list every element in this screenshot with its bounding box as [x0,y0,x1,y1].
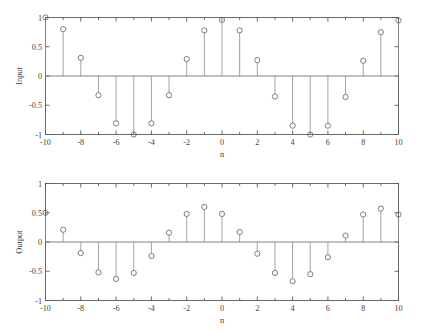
stem-marker [202,204,207,209]
stem-marker [272,270,277,275]
x-axis-label: n [220,150,225,159]
stem-plot-figure: -10-8-6-4-20246810-1-0.500.51nInput -10-… [0,0,422,332]
x-axis-tick-label: 8 [361,138,365,147]
x-axis-tick-label: 4 [291,304,295,313]
stem-marker [61,227,66,232]
x-axis-tick-label: -6 [113,304,120,313]
x-axis-tick-label: -2 [183,304,190,313]
y-axis-label: Input [15,66,24,84]
y-axis-tick-label: -1 [35,131,42,140]
y-axis-tick-label: 1 [38,180,42,189]
y-axis-tick-label: 0.5 [32,209,42,218]
stem-marker [343,233,348,238]
stem-series [43,204,401,283]
y-axis-tick-label: 1 [38,14,42,23]
stem-marker [166,230,171,235]
stem-marker [96,93,101,98]
stem-marker [219,211,224,216]
stem-marker [237,28,242,33]
stem-marker [361,212,366,217]
x-axis-tick-label: -2 [183,138,190,147]
stem-marker [325,123,330,128]
y-axis-tick-label: 0.5 [32,43,42,52]
stem-marker [114,121,119,126]
stem-marker [202,28,207,33]
y-axis-label: Output [15,230,24,254]
stem-marker [378,30,383,35]
stem-marker [78,55,83,60]
stem-marker [149,121,154,126]
stem-marker [290,279,295,284]
x-axis-tick-label: 2 [255,138,259,147]
x-axis-tick-label: 10 [394,304,402,313]
x-axis-tick-label: 0 [220,304,224,313]
stem-marker [290,123,295,128]
stem-marker [361,58,366,63]
stem-marker [237,229,242,234]
stem-marker [184,211,189,216]
x-axis-tick-label: 6 [326,138,330,147]
x-axis-tick-label: -4 [148,304,155,313]
x-axis-tick-label: 8 [361,304,365,313]
x-axis-tick-label: 6 [326,304,330,313]
stem-marker [61,27,66,32]
stem-marker [308,272,313,277]
x-axis-tick-label: 2 [255,304,259,313]
output-plot-canvas: -10-8-6-4-20246810-1-0.500.51nOutput [0,166,422,332]
stem-marker [378,206,383,211]
stem-marker [325,255,330,260]
y-axis-tick-label: -1 [35,297,42,306]
stem-marker [272,94,277,99]
stem-marker [343,94,348,99]
stem-marker [166,93,171,98]
input-plot-canvas: -10-8-6-4-20246810-1-0.500.51nInput [0,0,422,166]
x-axis-tick-label: -4 [148,138,155,147]
x-axis-label: n [220,316,225,325]
stem-marker [149,253,154,258]
stem-marker [78,251,83,256]
stem-marker [255,58,260,63]
x-axis-tick-label: -8 [77,304,84,313]
stem-marker [114,276,119,281]
y-axis-tick-label: 0 [38,72,42,81]
input-signal-panel: -10-8-6-4-20246810-1-0.500.51nInput [0,0,422,166]
y-axis-tick-label: -0.5 [29,101,42,110]
x-axis-tick-label: 4 [291,138,295,147]
stem-marker [96,270,101,275]
x-axis-tick-label: 0 [220,138,224,147]
x-axis-tick-label: -8 [77,138,84,147]
x-axis-tick-label: 10 [394,138,402,147]
stem-marker [255,251,260,256]
y-axis-tick-label: 0 [38,238,42,247]
stem-marker [131,270,136,275]
x-axis-tick-label: -6 [113,138,120,147]
stem-marker [184,56,189,61]
output-signal-panel: -10-8-6-4-20246810-1-0.500.51nOutput [0,166,422,332]
y-axis-tick-label: -0.5 [29,267,42,276]
